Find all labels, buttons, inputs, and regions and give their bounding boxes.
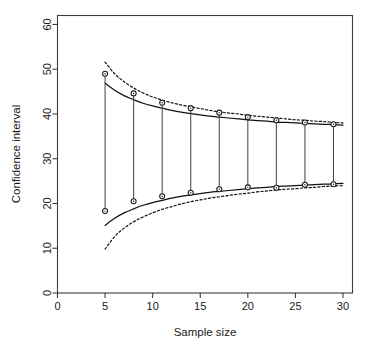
interval-endpoint-center [133,201,134,202]
interval-endpoint-center [247,187,248,188]
x-axis-title: Sample size [174,326,237,338]
bound-curve [105,83,343,125]
interval-segments [103,71,336,213]
x-axis: 051015202530 [54,293,349,312]
interval-endpoint-center [219,112,220,113]
y-axis-title: Confidence interval [10,105,22,203]
interval-endpoint-center [333,184,334,185]
x-axis-tick-label: 5 [102,300,108,312]
interval-endpoint-center [161,196,162,197]
bound-curve [105,62,343,123]
interval-endpoint-center [276,187,277,188]
interval-endpoint-center [133,93,134,94]
interval-endpoint-center [304,122,305,123]
confidence-bound-curves [105,62,343,249]
interval-endpoint-center [247,116,248,117]
bound-curve [105,186,343,250]
y-axis-tick-label: 20 [41,197,53,209]
interval-endpoint-center [190,192,191,193]
interval-endpoint-center [161,102,162,103]
x-axis-tick-label: 20 [242,300,254,312]
x-axis-tick-label: 30 [337,300,349,312]
chart-figure: 0102030405060 051015202530 Sample size C… [0,0,371,347]
interval-endpoint-center [104,73,105,74]
y-axis-tick-label: 0 [41,290,53,296]
interval-endpoint-center [219,188,220,189]
bound-curve [105,183,343,225]
y-axis-tick-label: 30 [41,153,53,165]
x-axis-tick-label: 10 [147,300,159,312]
y-axis-tick-label: 50 [41,63,53,75]
x-axis-tick-label: 0 [54,300,60,312]
plot-frame [58,16,353,294]
interval-endpoint-center [333,124,334,125]
y-axis-tick-label: 10 [41,242,53,254]
confidence-interval-plot: 0102030405060 051015202530 Sample size C… [0,0,371,347]
x-axis-tick-label: 15 [194,300,206,312]
interval-endpoint-center [190,107,191,108]
y-axis-tick-label: 60 [41,18,53,30]
interval-endpoint-center [276,120,277,121]
x-axis-tick-label: 25 [289,300,301,312]
y-axis-tick-label: 40 [41,108,53,120]
interval-endpoint-center [304,184,305,185]
interval-endpoint-center [104,210,105,211]
y-axis: 0102030405060 [41,18,57,296]
